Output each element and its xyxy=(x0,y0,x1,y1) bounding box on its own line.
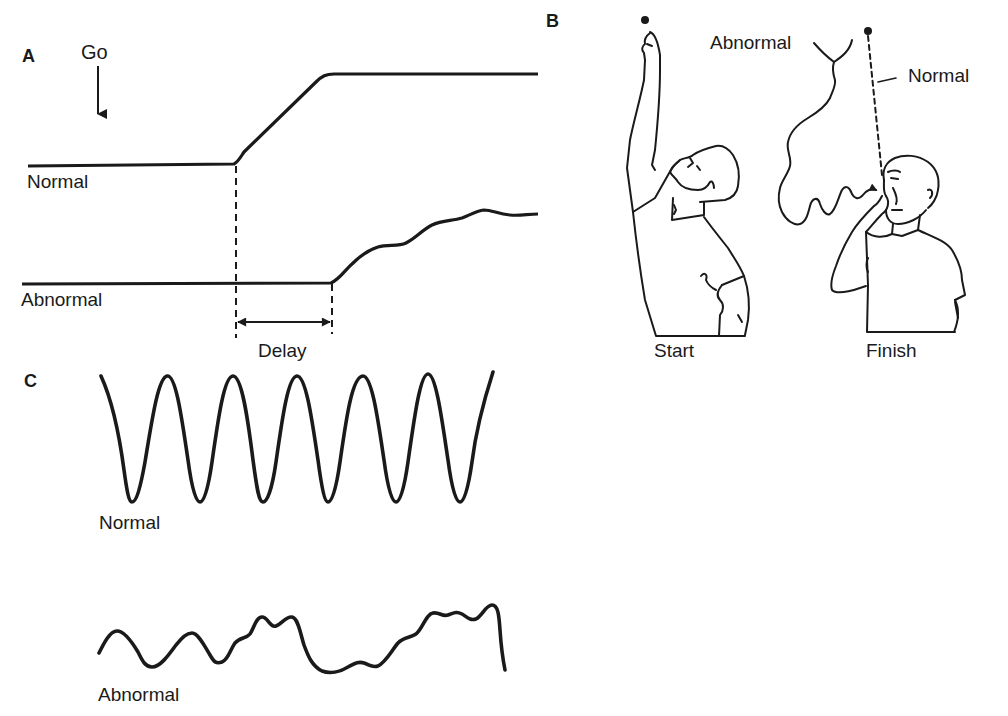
start-figure-illustration xyxy=(627,32,749,336)
go-label: Go xyxy=(81,42,108,62)
start-target-dot-icon xyxy=(641,16,649,24)
abnormal-label-leader xyxy=(814,43,834,62)
normal-label-leader xyxy=(878,78,896,82)
normal-alternating-movement-wave xyxy=(101,372,493,502)
delay-label: Delay xyxy=(258,341,307,360)
normal-trajectory-dashed-line xyxy=(868,36,882,175)
panel-b-letter: B xyxy=(546,12,559,30)
panel-b-normal-label: Normal xyxy=(908,66,969,85)
figure-canvas xyxy=(0,0,1008,716)
panel-c-letter: C xyxy=(24,372,37,390)
normal-response-trace xyxy=(28,74,538,166)
panel-c-normal-label: Normal xyxy=(99,513,160,532)
finish-target-dot-icon xyxy=(864,27,872,35)
abnormal-response-trace xyxy=(22,210,538,284)
panel-a-letter: A xyxy=(22,47,35,65)
panel-c-abnormal-label: Abnormal xyxy=(98,685,179,704)
finish-figure-illustration xyxy=(831,156,965,332)
start-label: Start xyxy=(654,341,694,360)
panel-b-diagram xyxy=(627,16,965,336)
panel-b-abnormal-label: Abnormal xyxy=(710,33,791,52)
finish-label: Finish xyxy=(866,341,917,360)
panel-a-abnormal-label: Abnormal xyxy=(21,290,102,309)
abnormal-trajectory-path xyxy=(779,40,876,224)
abnormal-alternating-movement-wave xyxy=(99,605,505,672)
panel-a-normal-label: Normal xyxy=(27,172,88,191)
